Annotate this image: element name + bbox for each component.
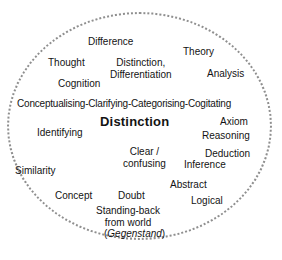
term-reasoning: Reasoning bbox=[202, 130, 250, 142]
term-identifying: Identifying bbox=[37, 127, 83, 139]
term-axiom: Axiom bbox=[220, 116, 248, 128]
term-abstract: Abstract bbox=[170, 179, 207, 191]
term-cognition: Cognition bbox=[58, 78, 100, 90]
term-logical: Logical bbox=[191, 195, 223, 207]
concept-map-canvas: Difference Theory Thought Distinction, D… bbox=[0, 0, 282, 260]
term-similarity: Similarity bbox=[15, 165, 56, 177]
term-inference: Inference bbox=[184, 159, 226, 171]
term-standing-back-from-world: Standing-back from world bbox=[96, 205, 160, 228]
gegenstand-close-paren: ) bbox=[162, 228, 165, 239]
term-distinction-differentiation: Distinction, Differentiation bbox=[110, 57, 172, 80]
gegenstand-italic-word: Gegenstand bbox=[107, 228, 162, 239]
term-doubt: Doubt bbox=[118, 190, 145, 202]
term-analysis: Analysis bbox=[207, 68, 244, 80]
term-concept: Concept bbox=[55, 190, 92, 202]
term-difference: Difference bbox=[88, 36, 133, 48]
term-thought: Thought bbox=[48, 57, 85, 69]
term-theory: Theory bbox=[183, 46, 214, 58]
center-term-distinction: Distinction bbox=[100, 116, 169, 128]
term-conceptualising-clarifying-categorising-cogitating: Conceptualising-Clarifying-Categorising-… bbox=[17, 98, 231, 110]
term-gegenstand: (Gegenstand) bbox=[104, 228, 165, 240]
term-deduction: Deduction bbox=[205, 148, 250, 160]
term-clear-confusing: Clear / confusing bbox=[123, 146, 166, 169]
